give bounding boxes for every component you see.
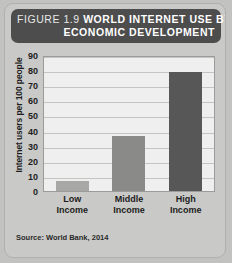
y-tick-30: 30 (28, 142, 38, 151)
figure-title-bar: FIGURE 1.9 WORLD INTERNET USE BY ECONOMI… (11, 9, 221, 43)
chart-area: Internet users per 100 people 9080706050… (5, 48, 226, 228)
source-note: Source: World Bank, 2014 (16, 233, 108, 242)
bar-series (44, 57, 214, 191)
bar-2 (169, 72, 202, 191)
x-label-line: Income (159, 205, 213, 216)
x-label-line: Middle (102, 194, 156, 205)
y-tick-80: 80 (28, 67, 38, 76)
figure-card: FIGURE 1.9 WORLD INTERNET USE BY ECONOMI… (4, 3, 226, 258)
x-label-2: HighIncome (159, 194, 213, 216)
y-tick-0: 0 (33, 188, 38, 197)
figure-number-label: FIGURE 1.9 (17, 13, 80, 25)
bar-1 (112, 136, 145, 191)
y-tick-20: 20 (28, 157, 38, 166)
y-axis-ticks: 9080706050403020100 (5, 56, 41, 192)
y-tick-90: 90 (28, 52, 38, 61)
y-tick-40: 40 (28, 127, 38, 136)
figure-title-line-2: ECONOMIC DEVELOPMENT (17, 26, 215, 39)
x-label-line: Income (45, 205, 99, 216)
y-tick-50: 50 (28, 112, 38, 121)
bar-0 (56, 181, 89, 191)
x-label-1: MiddleIncome (102, 194, 156, 216)
x-axis-labels: LowIncomeMiddleIncomeHighIncome (44, 194, 214, 216)
y-tick-60: 60 (28, 97, 38, 106)
y-tick-10: 10 (28, 172, 38, 181)
x-label-line: Low (45, 194, 99, 205)
x-label-line: High (159, 194, 213, 205)
x-label-line: Income (102, 205, 156, 216)
y-tick-70: 70 (28, 82, 38, 91)
x-label-0: LowIncome (45, 194, 99, 216)
figure-title-main: WORLD INTERNET USE BY (83, 13, 226, 25)
plot-wrapper (43, 56, 215, 192)
figure-title-line-1: FIGURE 1.9 WORLD INTERNET USE BY (17, 13, 215, 26)
